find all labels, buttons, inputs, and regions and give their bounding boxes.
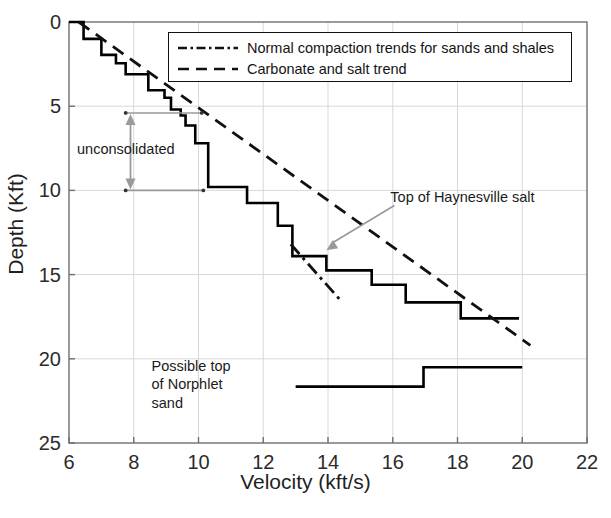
legend-item-carbonate-salt: Carbonate and salt trend bbox=[177, 58, 407, 80]
legend-label-normal-compaction: Normal compaction trends for sands and s… bbox=[247, 40, 554, 56]
norphlet-line-3: sand bbox=[152, 394, 231, 413]
legend-label-carbonate-salt: Carbonate and salt trend bbox=[247, 61, 407, 77]
y-tick-label-20: 20 bbox=[25, 347, 61, 370]
unconsolidated-guide-dot-2 bbox=[124, 189, 128, 193]
unconsolidated-guide-enddot-2 bbox=[201, 189, 205, 193]
y-tick-label-10: 10 bbox=[25, 179, 61, 202]
y-tick-label-25: 25 bbox=[25, 432, 61, 455]
annotation-unconsolidated: unconsolidated bbox=[77, 140, 175, 159]
norphlet-line-2: of Norphlet bbox=[152, 375, 231, 394]
unconsolidated-guide-dot-1 bbox=[124, 111, 128, 115]
velocity-depth-figure: 6810121416182022 0510152025 Velocity (kf… bbox=[0, 0, 611, 518]
legend-swatch-dashdot bbox=[177, 42, 239, 54]
annotation-possible-top-of-norphlet-sand: Possible top of Norphlet sand bbox=[152, 357, 231, 413]
gridlines bbox=[69, 22, 587, 443]
series-norphlet-sand-step bbox=[296, 367, 523, 386]
y-tick-label-15: 15 bbox=[25, 263, 61, 286]
legend-item-normal-compaction: Normal compaction trends for sands and s… bbox=[177, 37, 554, 59]
y-axis-title: Depth (Kft) bbox=[4, 134, 28, 314]
y-tick-label-0: 0 bbox=[25, 11, 61, 34]
norphlet-line-1: Possible top bbox=[152, 357, 231, 376]
annotation-graphics-group bbox=[124, 111, 395, 250]
unconsolidated-guide-enddot-1 bbox=[200, 111, 204, 115]
x-axis-title: Velocity (kft/s) bbox=[0, 470, 611, 494]
y-tick-label-5: 5 bbox=[25, 95, 61, 118]
legend-box: Normal compaction trends for sands and s… bbox=[168, 32, 572, 82]
legend-swatch-dashed bbox=[177, 63, 239, 75]
annotation-top-of-haynesville-salt: Top of Haynesville salt bbox=[390, 188, 534, 207]
